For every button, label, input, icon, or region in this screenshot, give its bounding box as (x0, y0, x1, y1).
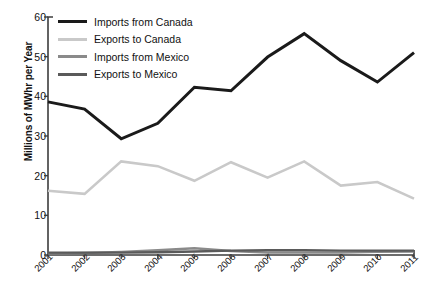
legend-item[interactable]: Imports from Canada (58, 13, 193, 31)
legend-swatch-icon (58, 38, 87, 41)
legend-item[interactable]: Exports to Canada (58, 31, 193, 49)
legend-label: Imports from Mexico (94, 51, 189, 63)
legend-item[interactable]: Imports from Mexico (58, 48, 193, 66)
legend-label: Imports from Canada (94, 16, 193, 28)
legend-swatch-icon (58, 20, 87, 23)
chart-legend: Imports from CanadaExports to CanadaImpo… (58, 13, 193, 83)
legend-swatch-icon (58, 73, 87, 76)
legend-label: Exports to Mexico (94, 68, 177, 80)
line-chart: Millions of MWhr per Year 6050403020100 … (0, 0, 429, 291)
legend-label: Exports to Canada (94, 33, 181, 45)
legend-item[interactable]: Exports to Mexico (58, 66, 193, 84)
legend-swatch-icon (58, 55, 87, 58)
series-line (48, 161, 414, 198)
